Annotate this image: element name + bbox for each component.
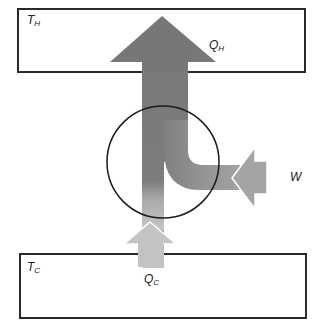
qh-label: QH bbox=[209, 38, 224, 53]
hot-reservoir-label: TH bbox=[27, 13, 40, 28]
qc-arrow-head bbox=[124, 222, 176, 244]
work-arrow-head bbox=[232, 147, 267, 209]
qc-arrow-tail bbox=[138, 243, 163, 267]
diagram-canvas: TH QH W TC QC bbox=[0, 0, 318, 327]
work-label: W bbox=[290, 170, 301, 184]
qc-label: QC bbox=[144, 272, 159, 287]
qh-arrow-head bbox=[110, 16, 216, 62]
cold-reservoir-label: TC bbox=[27, 260, 40, 275]
work-flow-arm bbox=[164, 120, 240, 190]
